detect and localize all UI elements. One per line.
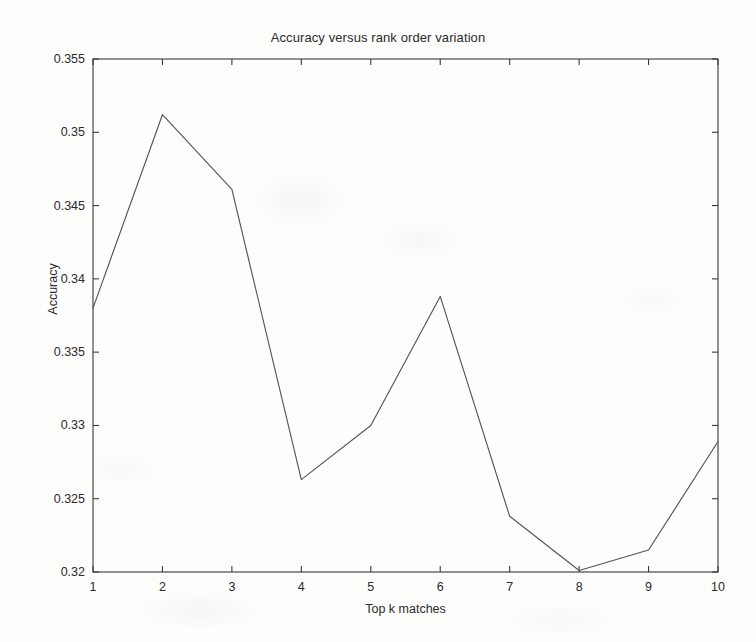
y-axis-label: Accuracy (46, 229, 60, 349)
figure-canvas: Accuracy versus rank order variation 0.3… (0, 0, 756, 642)
x-tick-label: 1 (90, 580, 97, 594)
x-tick-label: 9 (645, 580, 652, 594)
y-tick-label: 0.35 (15, 125, 85, 139)
x-tick-label: 6 (437, 580, 444, 594)
y-tick-label: 0.355 (15, 52, 85, 66)
y-tick-label: 0.32 (15, 565, 85, 579)
plot-area (0, 0, 756, 642)
y-tick-marks (93, 59, 718, 572)
x-tick-label: 4 (298, 580, 305, 594)
x-tick-label: 8 (576, 580, 583, 594)
x-tick-marks (93, 59, 718, 572)
x-tick-label: 3 (228, 580, 235, 594)
y-tick-label: 0.345 (15, 199, 85, 213)
x-tick-label: 2 (159, 580, 166, 594)
x-axis-label: Top k matches (93, 602, 718, 616)
x-tick-label: 10 (711, 580, 725, 594)
x-tick-label: 5 (367, 580, 374, 594)
axes-box (93, 59, 718, 572)
y-tick-label: 0.33 (15, 418, 85, 432)
y-tick-label: 0.325 (15, 492, 85, 506)
x-tick-label: 7 (506, 580, 513, 594)
accuracy-line-series (93, 115, 718, 571)
